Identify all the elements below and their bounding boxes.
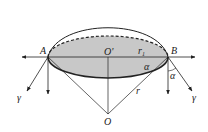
left-gamma-arrow <box>27 57 48 91</box>
label-O-prime: O' <box>104 46 114 57</box>
label-r: r <box>136 85 140 96</box>
diagram-canvas: A B O' r1 α α r γ γ O <box>0 0 208 132</box>
label-B: B <box>171 45 177 56</box>
label-gamma-right: γ <box>192 92 197 103</box>
label-A: A <box>39 45 47 56</box>
label-O: O <box>104 116 111 127</box>
label-alpha-outer: α <box>170 70 176 81</box>
label-alpha-inner: α <box>144 61 150 72</box>
label-gamma-left: γ <box>17 92 22 103</box>
label-r1-sub: 1 <box>142 51 145 57</box>
